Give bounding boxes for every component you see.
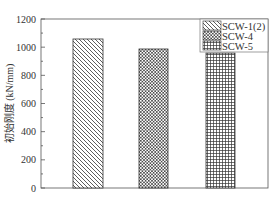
y-tick-label: 600 bbox=[21, 98, 36, 109]
legend-swatch-diagonal bbox=[203, 21, 221, 30]
bar-scw-4 bbox=[139, 49, 168, 188]
y-tick-label: 0 bbox=[31, 183, 36, 194]
bar-scw-5 bbox=[206, 53, 235, 188]
y-tick-label: 1200 bbox=[16, 14, 36, 25]
y-tick-label: 1000 bbox=[16, 42, 36, 53]
bar-chart: 0 200 400 600 800 1000 1200 初始刚度 (kN/mm)… bbox=[0, 0, 275, 205]
chart-canvas: 0 200 400 600 800 1000 1200 初始刚度 (kN/mm)… bbox=[0, 0, 275, 205]
legend-label: SCW-5 bbox=[222, 41, 253, 52]
y-tick-label: 800 bbox=[21, 70, 36, 81]
y-axis-title: 初始刚度 (kN/mm) bbox=[3, 64, 16, 144]
y-tick-label: 200 bbox=[21, 154, 36, 165]
bar-scw-1-2 bbox=[73, 39, 103, 188]
y-axis-labels: 0 200 400 600 800 1000 1200 bbox=[16, 14, 36, 194]
y-tick-label: 400 bbox=[21, 126, 36, 137]
y-axis-ticks bbox=[41, 19, 45, 188]
legend: SCW-1(2) SCW-4 SCW-5 bbox=[200, 19, 268, 52]
legend-swatch-grid bbox=[203, 41, 221, 50]
legend-swatch-crosshatch bbox=[203, 31, 221, 40]
bars bbox=[73, 39, 235, 188]
